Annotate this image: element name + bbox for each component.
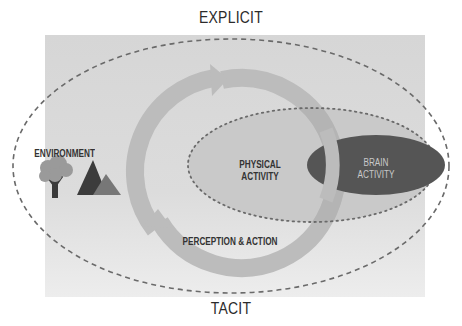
physical-activity-label: PHYSICAL ACTIVITY: [227, 159, 293, 182]
physical-activity-line2: ACTIVITY: [227, 171, 293, 183]
brain-activity-label: BRAIN ACTIVITY: [343, 157, 409, 180]
brain-activity-line1: BRAIN: [343, 157, 409, 169]
perception-action-label: PERCEPTION & ACTION: [181, 236, 279, 248]
physical-activity-line1: PHYSICAL: [227, 159, 293, 171]
brain-activity-line2: ACTIVITY: [343, 169, 409, 181]
explicit-label: EXPLICIT: [190, 8, 272, 28]
tacit-label: TACIT: [202, 299, 259, 319]
environment-label: ENVIRONMENT: [34, 148, 91, 160]
